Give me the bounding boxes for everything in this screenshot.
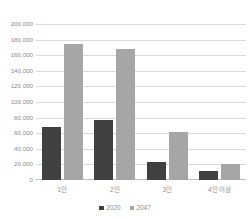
y-axis-tick-label: 60,000	[14, 130, 33, 136]
bar-group	[194, 24, 247, 180]
bar-2047-2인[interactable]	[116, 49, 135, 180]
bar-2020-2인[interactable]	[94, 120, 113, 180]
y-axis-tick-label: 160,000	[11, 52, 33, 58]
legend-swatch-icon	[99, 206, 104, 211]
bar-2020-4인 이상[interactable]	[199, 171, 218, 180]
x-axis-tick-label: 4인 이상	[194, 182, 247, 198]
bar-group	[141, 24, 194, 180]
bar-chart: 200,000180,000160,000140,000120,000100,0…	[0, 0, 250, 220]
bar-2047-1인[interactable]	[64, 44, 83, 181]
y-axis-tick-label: 20,000	[14, 161, 33, 167]
x-axis-tick-label: 1인	[36, 182, 89, 198]
bar-2020-3인[interactable]	[147, 162, 166, 180]
legend-item-2047[interactable]: 2047	[130, 205, 151, 211]
legend-swatch-icon	[130, 206, 135, 211]
legend-label: 2047	[137, 205, 151, 211]
chart-legend: 20202047	[0, 201, 250, 215]
y-axis-tick-label: 120,000	[11, 83, 33, 89]
y-axis: 200,000180,000160,000140,000120,000100,0…	[0, 0, 36, 186]
plot-area: 200,000180,000160,000140,000120,000100,0…	[0, 0, 250, 186]
y-axis-tick-label: 80,000	[14, 114, 33, 120]
bar-2047-3인[interactable]	[169, 132, 188, 180]
bar-2047-4인 이상[interactable]	[221, 164, 240, 180]
y-axis-tick-label: 140,000	[11, 68, 33, 74]
bars-layer	[36, 24, 246, 180]
bar-group	[36, 24, 89, 180]
bar-group	[89, 24, 142, 180]
y-axis-tick-label: 0	[30, 177, 33, 183]
y-axis-tick-label: 40,000	[14, 146, 33, 152]
y-axis-tick-label: 100,000	[11, 99, 33, 105]
bar-2020-1인[interactable]	[42, 127, 61, 180]
y-axis-tick-label: 200,000	[11, 21, 33, 27]
x-axis: 1인2인3인4인 이상	[36, 182, 246, 198]
legend-item-2020[interactable]: 2020	[99, 205, 120, 211]
x-axis-tick-label: 2인	[89, 182, 142, 198]
x-axis-tick-label: 3인	[141, 182, 194, 198]
legend-label: 2020	[106, 205, 120, 211]
y-axis-tick-label: 180,000	[11, 36, 33, 42]
